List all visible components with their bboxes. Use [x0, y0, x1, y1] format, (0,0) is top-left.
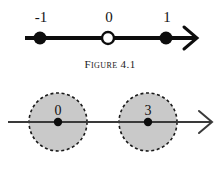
- closed-endpoint-dot: [34, 32, 47, 45]
- disc-label-three: 3: [145, 104, 152, 118]
- figure-caption: Figure 4.1: [0, 58, 220, 70]
- figure-4-1: -1 0 1 Figure 4.1: [0, 0, 220, 80]
- disc-center-dot: [54, 118, 62, 126]
- disc-label-zero: 0: [55, 104, 62, 118]
- tick-label-zero: 0: [105, 10, 113, 25]
- disc-center-dot: [144, 118, 152, 126]
- figure-page: -1 0 1 Figure 4.1 0 3 Figure 4.2: [0, 0, 220, 174]
- neighborhood-diagram: [0, 80, 220, 170]
- closed-endpoint-dot: [160, 32, 173, 45]
- figure-4-2: 0 3 Figure 4.2: [0, 80, 220, 174]
- open-endpoint-dot: [102, 32, 114, 44]
- tick-label-negative-one: -1: [35, 10, 48, 25]
- tick-label-one: 1: [163, 10, 171, 25]
